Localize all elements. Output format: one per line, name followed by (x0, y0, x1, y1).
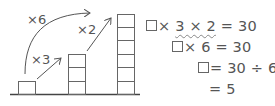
stack-1-block (19, 82, 36, 95)
stack-6-blocks (118, 15, 135, 95)
equation-line-4: = 5 (209, 80, 236, 98)
equation-line-1: × 3 × 2 = 30 (146, 17, 257, 35)
unknown-box-icon (146, 20, 157, 31)
equation-line-3: = 30 ÷ 6 (198, 59, 275, 77)
unknown-box-icon (172, 41, 183, 52)
label-x3: ×3 (31, 52, 50, 67)
equation-line-2: × 6 = 30 (172, 38, 251, 56)
label-x2: ×2 (77, 22, 96, 37)
unknown-box-icon (198, 62, 209, 73)
stack-3-blocks (69, 55, 86, 95)
multiplication-diagram: ×6 ×3 ×2 (0, 0, 140, 106)
label-x6: ×6 (27, 12, 46, 27)
underlined-product: 3 × 2 (175, 18, 216, 34)
